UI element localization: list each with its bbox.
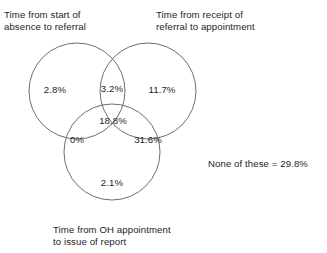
none-of-these-note: None of these = 29.8% — [208, 158, 308, 169]
region-value-left-bottom: 0% — [70, 134, 84, 145]
region-value-right-bottom: 31.6% — [134, 134, 162, 145]
set-label-bottom: Time from OH appointment to issue of rep… — [53, 224, 171, 247]
region-value-bottom-only: 2.1% — [101, 177, 123, 188]
region-value-left-only: 2.8% — [44, 84, 66, 95]
venn-diagram-figure: Time from start of absence to referral T… — [0, 0, 327, 253]
set-label-right: Time from receipt of referral to appoint… — [156, 9, 255, 32]
set-label-right-line1: Time from receipt of — [156, 9, 255, 21]
set-label-right-line2: referral to appointment — [156, 21, 255, 33]
set-label-bottom-line1: Time from OH appointment — [53, 224, 171, 236]
region-value-right-only: 11.7% — [149, 84, 176, 95]
region-value-left-right: 3.2% — [101, 83, 123, 94]
set-label-left-line2: absence to referral — [4, 21, 86, 33]
venn-circles — [0, 0, 327, 253]
set-label-left-line1: Time from start of — [4, 9, 86, 21]
set-label-left: Time from start of absence to referral — [4, 9, 86, 32]
set-label-bottom-line2: to issue of report — [53, 236, 171, 248]
region-value-all-three: 18.8% — [99, 115, 127, 126]
